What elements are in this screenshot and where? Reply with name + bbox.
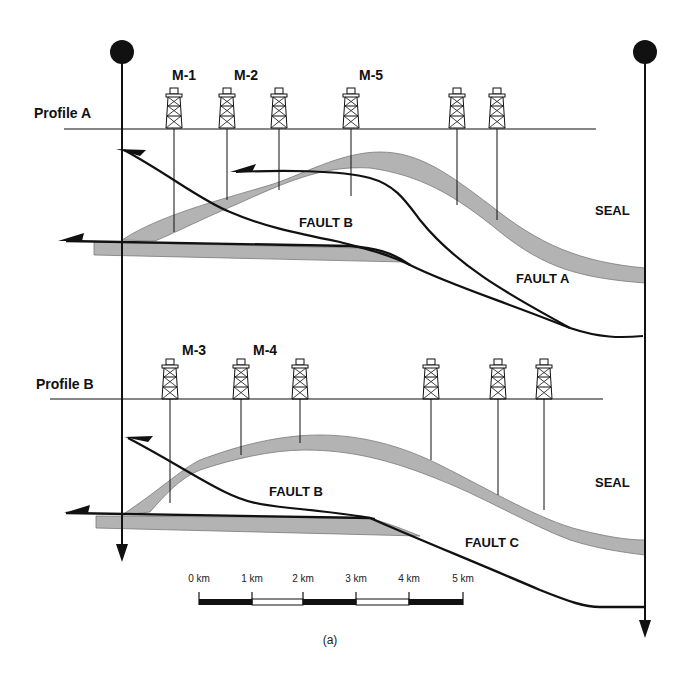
well-derrick-icon <box>343 88 359 196</box>
profile-b: Profile B M-3 M-4 FAULT B FAULT C SEAL <box>36 342 645 607</box>
profile-a-title: Profile A <box>34 105 91 121</box>
arrow-left-icon <box>58 233 84 241</box>
well-derrick-icon <box>271 88 287 190</box>
profile-b-wells <box>162 359 552 510</box>
arrow-left-icon <box>64 505 90 513</box>
well-label-m4: M-4 <box>253 342 277 358</box>
profile-a-fault-b-label: FAULT B <box>299 215 353 230</box>
profile-b-title: Profile B <box>36 376 94 392</box>
well-derrick-icon <box>166 88 182 232</box>
scale-tick-5: 5 km <box>452 573 474 584</box>
well-label-m1: M-1 <box>172 67 196 83</box>
profile-b-fault-b-label: FAULT B <box>269 484 323 499</box>
well-derrick-icon <box>423 359 439 460</box>
cross-section-diagram: Profile A M-1 M-2 M-5 FAULT B FAULT A <box>0 0 691 682</box>
scale-tick-4: 4 km <box>398 573 420 584</box>
profile-a-seal-label: SEAL <box>595 203 630 218</box>
profile-b-seal-label: SEAL <box>595 475 630 490</box>
profile-b-seal-layer <box>122 435 645 555</box>
figure-caption: (a) <box>323 633 338 647</box>
scale-tick-0: 0 km <box>188 573 210 584</box>
well-derrick-icon <box>219 88 235 200</box>
well-label-m3: M-3 <box>182 342 206 358</box>
well-derrick-icon <box>489 88 505 220</box>
well-derrick-icon <box>233 359 249 455</box>
scale-tick-2: 2 km <box>292 573 314 584</box>
profile-a: Profile A M-1 M-2 M-5 FAULT B FAULT A <box>34 67 645 337</box>
arrow-down-icon <box>116 544 128 562</box>
well-label-m2: M-2 <box>234 67 258 83</box>
arrow-down-icon <box>639 620 651 638</box>
scale-tick-3: 3 km <box>345 573 367 584</box>
well-label-m5: M-5 <box>359 67 383 83</box>
well-derrick-icon <box>292 359 308 443</box>
scale-tick-1: 1 km <box>241 573 263 584</box>
well-derrick-icon <box>536 359 552 510</box>
scale-bar: 0 km 1 km 2 km 3 km 4 km 5 km <box>188 573 474 605</box>
profile-a-seal-layer <box>122 152 645 283</box>
arrow-left-icon <box>230 164 256 172</box>
left-marker <box>110 40 134 562</box>
profile-b-fault-c-label: FAULT C <box>465 535 520 550</box>
well-derrick-icon <box>490 359 506 495</box>
profile-a-fault-a-label: FAULT A <box>516 271 570 286</box>
